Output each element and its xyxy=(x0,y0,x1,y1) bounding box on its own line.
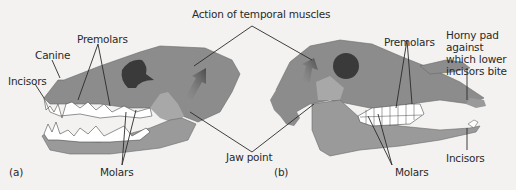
label-b-horny-pad: Horny pad against which lower incisors b… xyxy=(446,29,508,77)
panel-b-tag: (b) xyxy=(274,166,288,178)
carnivore-skull xyxy=(42,46,240,154)
label-a-premolars: Premolars xyxy=(77,33,128,45)
label-b-premolars: Premolars xyxy=(384,36,435,48)
label-action-temporal-muscles: Action of temporal muscles xyxy=(192,8,330,20)
label-jaw-point: Jaw point xyxy=(226,151,272,163)
skull-comparison-diagram: Action of temporal muscles Jaw point Inc… xyxy=(0,0,516,190)
label-a-incisors: Incisors xyxy=(8,75,47,87)
label-a-molars: Molars xyxy=(100,166,133,178)
label-a-canine: Canine xyxy=(35,49,70,61)
label-b-molars: Molars xyxy=(395,166,428,178)
panel-a-tag: (a) xyxy=(9,166,23,178)
label-b-incisors: Incisors xyxy=(446,152,485,164)
